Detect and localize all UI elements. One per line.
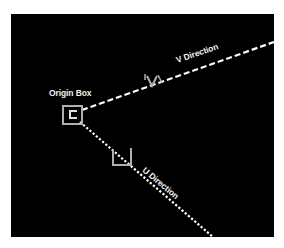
origin-box-icon — [63, 106, 82, 124]
axis-diagram — [0, 0, 284, 248]
u-direction-line — [80, 122, 213, 237]
v-direction-marker-icon — [145, 74, 162, 86]
v-direction-line — [82, 42, 274, 110]
u-direction-marker-icon — [113, 148, 131, 165]
origin-box-label: Origin Box — [49, 88, 91, 98]
